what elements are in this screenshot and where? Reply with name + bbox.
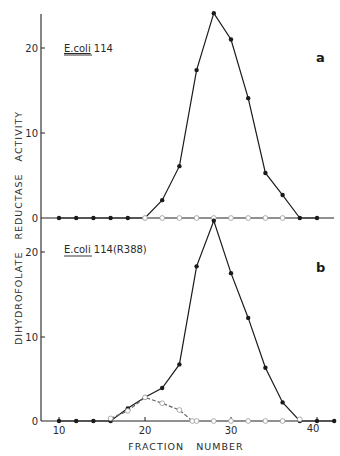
data-point [160,401,165,406]
data-point [74,419,78,423]
panel-a: 20 10 0 E.coli 114 a [25,11,334,226]
panel-b-strain-label: E.coli 114(R388) [64,244,147,255]
data-point [91,216,95,220]
data-point [108,416,113,421]
data-point [177,164,181,168]
panel-a-ytick-0: 0 [32,213,38,224]
data-point [160,198,164,202]
data-point [91,419,95,423]
data-point [263,216,268,221]
data-point [280,400,284,404]
data-point [229,419,234,424]
xtick-10: 10 [53,425,66,436]
data-point [297,417,302,422]
data-point [298,216,302,220]
data-point [74,216,78,220]
panel-b: 20 10 0 E.coli 114(R388) b 10 20 30 40 [25,219,336,436]
data-point [194,68,198,72]
data-point [57,419,61,423]
data-point [229,37,233,41]
data-point [246,216,251,221]
data-point [194,419,199,424]
panel-a-ytick-10: 10 [25,128,38,139]
chart-figure: 20 10 0 E.coli 114 a 20 10 0 E.coli 114(… [0,0,340,456]
xtick-30: 30 [225,425,238,436]
panel-a-label: a [316,50,325,65]
data-point [212,219,216,223]
panel-b-ytick-0: 0 [32,416,38,427]
data-point [229,216,234,221]
data-point [246,419,251,424]
y-axis-title: DIHYDROFOLATE REDUCTASE ACTIVITY [13,111,24,345]
data-point [125,408,130,413]
data-point [263,366,267,370]
data-point [246,316,250,320]
data-point [280,419,285,424]
data-point [108,216,112,220]
panel-a-strain-label: E.coli 114 [64,43,113,54]
data-point [246,96,250,100]
data-point [177,216,182,221]
data-point [280,216,285,221]
data-point [280,193,284,197]
data-point [212,11,216,15]
panel-b-ytick-10: 10 [25,332,38,343]
data-point [332,419,336,423]
data-point [315,419,319,423]
panel-b-ytick-20: 20 [25,247,38,258]
panel-a-ytick-20: 20 [25,43,38,54]
xtick-40: 40 [307,423,320,434]
data-point [160,216,165,221]
panel-b-label: b [316,260,325,275]
data-point [143,395,148,400]
data-point [143,216,148,221]
data-point [194,216,199,221]
data-point [315,216,319,220]
data-point [229,271,233,275]
data-point [57,216,61,220]
data-point [177,408,182,413]
xtick-20: 20 [139,425,152,436]
data-point [126,216,130,220]
data-point [177,362,181,366]
x-axis-title: FRACTION NUMBER [128,441,243,452]
data-point [263,171,267,175]
data-point [263,419,268,424]
data-point [194,264,198,268]
data-point [211,419,216,424]
data-point [160,386,164,390]
